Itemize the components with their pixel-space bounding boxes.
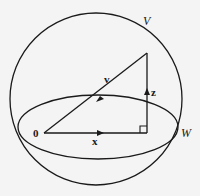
label-vector-v: v <box>104 73 110 85</box>
label-origin: 0 <box>33 127 39 139</box>
projection-diagram: V W v x z 0 <box>0 0 200 196</box>
vector-v-arrowhead-icon <box>96 96 104 102</box>
vector-v-line <box>44 53 147 133</box>
label-subspace-w: W <box>181 126 192 140</box>
diagram-svg: V W v x z 0 <box>0 0 200 196</box>
label-vector-x: x <box>92 135 98 147</box>
label-space-v: V <box>143 14 152 28</box>
subspace-w-ellipse <box>18 95 178 159</box>
vector-z-arrowhead-icon <box>144 88 150 95</box>
vector-x-arrowhead-icon <box>97 130 104 136</box>
right-angle-marker-icon <box>140 126 147 133</box>
label-vector-z: z <box>151 86 156 98</box>
